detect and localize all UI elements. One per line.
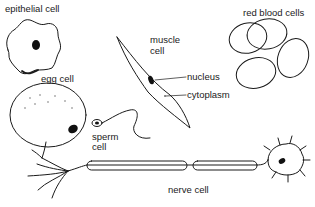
label-egg-cell: egg cell [41,73,74,84]
sperm-nucleus [95,121,99,124]
label-sperm-cell-2: cell [92,141,106,152]
label-muscle-cell-1: muscle [150,34,180,45]
label-nucleus: nucleus [187,71,220,82]
red-blood-cell-3 [272,34,314,82]
muscle-nucleus [147,75,155,85]
label-epithelial-cell: epithelial cell [5,3,59,14]
cell-diagram [0,0,315,207]
epithelial-nucleus [32,40,40,50]
label-red-blood-cells: red blood cells [243,7,304,18]
egg-nucleus [67,123,80,135]
nerve-nucleus [278,157,287,165]
red-blood-cell-1 [226,19,270,58]
label-nerve-cell: nerve cell [168,184,209,195]
label-muscle-cell-2: cell [150,45,164,56]
egg-cell-outline [10,83,86,147]
red-blood-cell-4 [233,53,279,92]
label-cytoplasm: cytoplasm [187,89,230,100]
